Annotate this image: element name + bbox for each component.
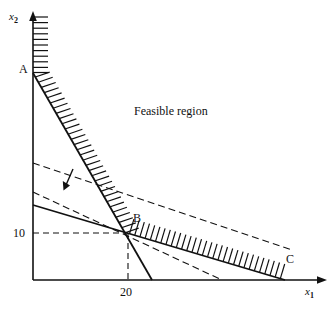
y-axis-label: x2 bbox=[9, 11, 18, 25]
y-axis-tick-label-10: 10 bbox=[13, 227, 25, 239]
x-axis-label-sub: 1 bbox=[310, 291, 314, 300]
feasible-region-figure: x2 x1 10 20 A B C Feasible region bbox=[0, 0, 335, 315]
constraint-ab-hatching bbox=[35, 72, 138, 233]
x-axis-label: x1 bbox=[305, 286, 314, 300]
vertex-label-a: A bbox=[19, 63, 28, 75]
figure-canvas bbox=[0, 0, 335, 315]
y-axis-label-sub: 2 bbox=[14, 16, 18, 25]
y-axis-hatching bbox=[33, 17, 48, 73]
feasible-region-label: Feasible region bbox=[134, 105, 208, 117]
improvement-direction-arrow bbox=[63, 169, 73, 191]
y-axis-arrow-icon bbox=[29, 11, 37, 21]
constraint-bc-hatching bbox=[130, 219, 285, 278]
x-axis-tick-label-20: 20 bbox=[120, 286, 132, 298]
x-axis-arrow-icon bbox=[317, 276, 327, 284]
vertex-label-c: C bbox=[286, 253, 294, 265]
constraint-boundary-bc bbox=[33, 205, 285, 280]
vertex-label-b: B bbox=[133, 212, 141, 224]
